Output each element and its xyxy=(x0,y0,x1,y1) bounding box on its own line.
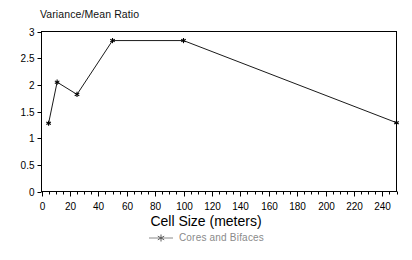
chart-legend: Cores and Bifaces xyxy=(0,232,412,243)
x-tick-label: 240 xyxy=(374,201,391,212)
x-tick-label: 40 xyxy=(93,201,105,212)
y-tick-label: 3 xyxy=(29,27,35,38)
plot-frame xyxy=(42,32,397,192)
plot-border xyxy=(42,32,397,192)
plot-area: 00.511.522.53 02040608010012014016018020… xyxy=(0,0,412,232)
y-axis-ticks xyxy=(38,33,42,193)
y-tick-label: 2 xyxy=(29,80,35,91)
x-tick-label: 200 xyxy=(318,201,335,212)
x-tick-label: 220 xyxy=(346,201,363,212)
x-axis-title: Cell Size (meters) xyxy=(150,213,261,229)
y-tick-label: 2.5 xyxy=(21,53,35,64)
y-tick-label: 1.5 xyxy=(21,107,35,118)
x-axis-major-ticks xyxy=(43,192,383,197)
x-tick-label: 180 xyxy=(289,201,306,212)
x-tick-label: 0 xyxy=(40,201,46,212)
x-tick-label: 100 xyxy=(176,201,193,212)
chart-figure: Variance/Mean Ratio 00.511.522.53 020406… xyxy=(0,0,412,260)
legend-label-cores-and-bifaces: Cores and Bifaces xyxy=(179,232,264,243)
y-tick-label: 0 xyxy=(29,187,35,198)
x-tick-label: 80 xyxy=(150,201,162,212)
x-tick-label: 60 xyxy=(122,201,134,212)
y-axis-tick-labels: 00.511.522.53 xyxy=(21,27,35,198)
x-tick-label: 120 xyxy=(204,201,221,212)
x-tick-label: 160 xyxy=(261,201,278,212)
x-tick-label: 20 xyxy=(65,201,77,212)
y-tick-label: 1 xyxy=(29,133,35,144)
x-axis-tick-labels: 020406080100120140160180200220240 xyxy=(40,201,392,212)
legend-marker-icon xyxy=(148,233,174,243)
x-tick-label: 140 xyxy=(232,201,249,212)
y-tick-label: 0.5 xyxy=(21,160,35,171)
